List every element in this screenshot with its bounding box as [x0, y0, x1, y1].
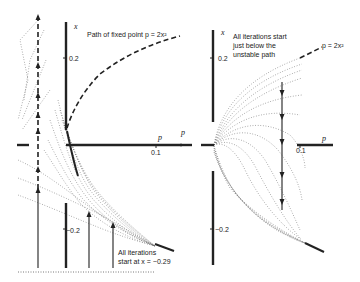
right-down-arrows: [280, 82, 285, 210]
right-p-axis-label: p: [321, 134, 326, 143]
diagram-canvas: x 0.2 −0.2 0.1 Path of fixed point p = 2…: [0, 0, 360, 282]
left-panel: x 0.2 −0.2 0.1 Path of fixed point p = 2…: [17, 14, 182, 272]
left-branch-tail: [155, 244, 174, 251]
right-start-annotation-line1: All iterations start: [233, 33, 287, 40]
left-start-annotation-line2: start at x = −0.29: [118, 258, 171, 265]
left-p-axis-label: p: [157, 133, 162, 142]
left-x-axis-label: x: [73, 22, 78, 31]
right-unstable-path-dash: [300, 47, 322, 58]
right-iteration-paths: [214, 58, 305, 243]
left-tick-label-0.2: 0.2: [69, 55, 79, 62]
left-tick-label-0.1: 0.1: [151, 149, 161, 156]
right-tick-label-0.1: 0.1: [296, 147, 306, 154]
right-branch-tail: [305, 243, 324, 252]
right-x-axis-label: x: [220, 28, 225, 37]
left-start-annotation-line1: All iterations: [118, 249, 157, 256]
right-panel: x p p 0.2 −0.2 0.1 All iterations start …: [180, 28, 344, 265]
fixed-point-iteration-diagram: x 0.2 −0.2 0.1 Path of fixed point p = 2…: [0, 0, 360, 282]
right-p-axis-label-left: p: [180, 128, 185, 137]
right-curve-label: p = 2x²: [322, 42, 344, 50]
left-stable-branch: [67, 131, 78, 176]
right-start-annotation-line3: unstable path: [233, 51, 275, 59]
left-fixed-point-path: [67, 36, 180, 128]
left-fixed-point-annotation: Path of fixed point p = 2x²: [87, 31, 167, 39]
right-start-annotation-line2: just below the: [232, 42, 276, 50]
right-tick-label-neg0.2: −0.2: [215, 226, 229, 233]
right-tick-label-0.2: 0.2: [218, 55, 228, 62]
left-tick-label-neg0.2: −0.2: [66, 227, 80, 234]
